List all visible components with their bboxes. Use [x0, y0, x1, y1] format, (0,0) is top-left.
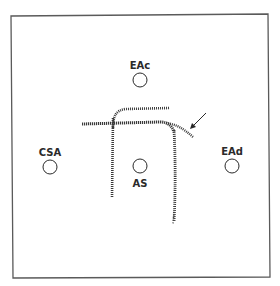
track-right-vertical [174, 130, 175, 222]
site-as: AS [133, 159, 148, 189]
site-eac-label: EAc [130, 60, 151, 71]
electrode-tracks [82, 108, 193, 224]
track-left-vertical [112, 118, 113, 198]
site-eac: EAc [130, 60, 151, 87]
site-csa-label: CSA [39, 147, 62, 158]
track-horizontal [82, 122, 174, 132]
diagram-canvas: EAc CSA AS EAd [0, 0, 280, 286]
site-as-label: AS [133, 178, 148, 189]
site-as-circle-icon [133, 159, 147, 173]
site-ead-label: EAd [221, 146, 243, 157]
site-csa-circle-icon [43, 160, 57, 174]
track-upper-arc [113, 108, 170, 128]
site-eac-circle-icon [133, 73, 147, 87]
site-ead-circle-icon [225, 159, 239, 173]
site-csa: CSA [39, 147, 62, 174]
pointer-arrow-icon [190, 113, 206, 129]
site-ead: EAd [221, 146, 243, 173]
